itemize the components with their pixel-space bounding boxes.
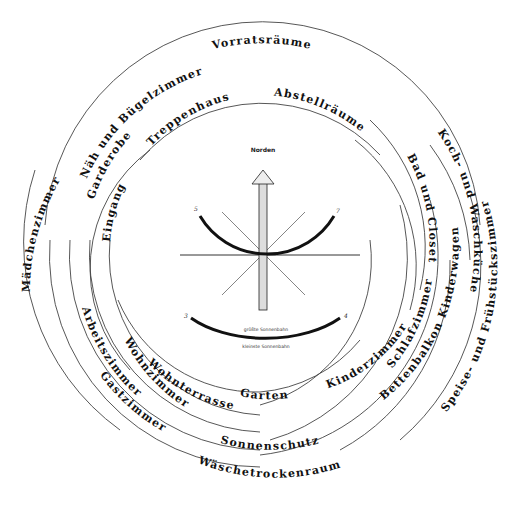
label-abstellraeume: Abstellräume — [272, 86, 368, 135]
marker-4: 4 — [343, 312, 348, 319]
room-relationship-diagram: Norden größte Sonnenbahn kleinste Sonnen… — [0, 0, 526, 506]
label-sonnen: Sonnenschutz — [219, 433, 320, 452]
sun-path-small-label: kleinste Sonnenbahn — [242, 344, 289, 349]
label-vorratsraeume: Vorratsräume — [210, 33, 313, 52]
label-bad: Bad und Closet — [404, 151, 439, 264]
north-label: Norden — [251, 146, 276, 153]
sun-path-large-label: größte Sonnenbahn — [244, 327, 289, 332]
marker-7: 7 — [336, 207, 340, 214]
north-arrow-head — [252, 170, 274, 184]
compass: Norden größte Sonnenbahn kleinste Sonnen… — [180, 146, 360, 349]
label-naeh: Näh und Bügelzimmer — [77, 64, 204, 180]
marker-5: 5 — [194, 205, 198, 212]
label-eingang: Eingang — [100, 181, 128, 243]
north-arrow-shaft — [259, 180, 267, 310]
marker-3: 3 — [184, 312, 188, 319]
label-waesche: Wäschetrockenraum — [196, 453, 343, 480]
label-maedchen: Mädchenzimmer — [20, 174, 64, 292]
